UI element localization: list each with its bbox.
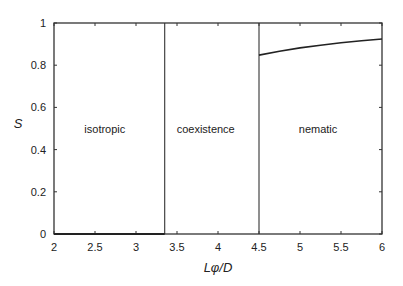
x-tick-label: 2.5 bbox=[87, 241, 102, 253]
region-label: coexistence bbox=[177, 123, 235, 135]
y-tick-label: 1 bbox=[40, 17, 46, 29]
y-tick-label: 0.8 bbox=[31, 59, 46, 71]
y-tick-label: 0.6 bbox=[31, 101, 46, 113]
y-axis-label: S bbox=[14, 116, 23, 131]
x-tick-label: 3.5 bbox=[169, 241, 184, 253]
series-line bbox=[259, 39, 382, 55]
x-tick-label: 5.5 bbox=[333, 241, 348, 253]
x-tick-label: 3 bbox=[133, 241, 139, 253]
y-tick-label: 0.2 bbox=[31, 186, 46, 198]
x-tick-label: 4 bbox=[215, 241, 221, 253]
x-tick-label: 5 bbox=[297, 241, 303, 253]
region-labels: isotropiccoexistencenematic bbox=[84, 123, 337, 135]
phase-diagram-chart: 22.533.544.555.5600.20.40.60.81 isotropi… bbox=[0, 0, 403, 286]
y-tick-label: 0 bbox=[40, 228, 46, 240]
region-label: nematic bbox=[299, 123, 338, 135]
x-tick-label: 6 bbox=[379, 241, 385, 253]
x-axis-label: Lφ/D bbox=[204, 260, 233, 275]
y-tick-label: 0.4 bbox=[31, 144, 46, 156]
data-series bbox=[54, 39, 382, 234]
x-tick-label: 4.5 bbox=[251, 241, 266, 253]
axis-ticks: 22.533.544.555.5600.20.40.60.81 bbox=[31, 17, 385, 253]
x-tick-label: 2 bbox=[51, 241, 57, 253]
region-label: isotropic bbox=[84, 123, 125, 135]
